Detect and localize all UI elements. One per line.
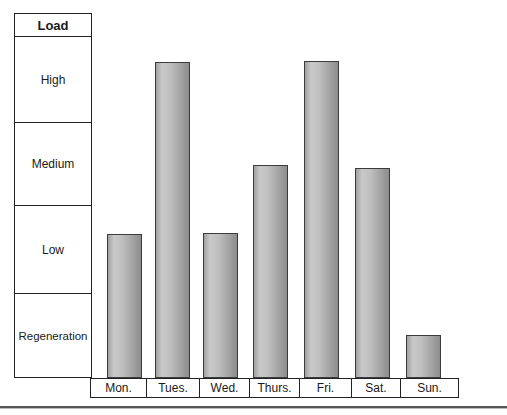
day-label-sun: Sun. — [400, 379, 458, 397]
day-label-fri: Fri. — [299, 379, 351, 397]
legend-title: Load — [15, 14, 91, 37]
bar-fri — [304, 61, 339, 378]
bar-thurs — [253, 165, 288, 378]
day-label-wed: Wed. — [199, 379, 249, 397]
day-label-mon: Mon. — [91, 379, 146, 397]
bar-tues — [155, 62, 190, 378]
load-level-low: Low — [15, 206, 91, 294]
load-bar-chart-figure: Load High Medium Low Regeneration Mon. T… — [0, 0, 507, 415]
day-label-thurs: Thurs. — [249, 379, 299, 397]
bar-sun — [406, 335, 441, 378]
load-level-high: High — [15, 37, 91, 123]
day-label-tues: Tues. — [146, 379, 199, 397]
bar-wed — [203, 233, 238, 378]
day-label-row: Mon. Tues. Wed. Thurs. Fri. Sat. Sun. — [90, 378, 459, 398]
load-level-medium: Medium — [15, 123, 91, 206]
day-label-sat: Sat. — [351, 379, 400, 397]
bottom-rule — [0, 406, 507, 409]
bar-sat — [355, 168, 390, 378]
load-legend-table: Load High Medium Low Regeneration — [14, 13, 92, 378]
bar-mon — [107, 234, 142, 378]
load-level-regeneration: Regeneration — [15, 294, 91, 377]
